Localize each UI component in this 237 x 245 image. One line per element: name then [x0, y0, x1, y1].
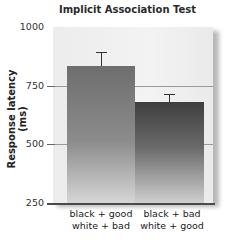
y-tick-label-750: 750 — [10, 80, 44, 91]
bar-black-bad-white-good — [135, 102, 204, 203]
y-tick-750 — [47, 86, 55, 87]
error-bar-1-stem — [101, 52, 102, 66]
error-bar-2-stem — [169, 94, 170, 102]
x-category-1-line-2: white + bad — [65, 220, 137, 232]
y-tick-500 — [47, 144, 55, 145]
error-bar-1-cap — [96, 52, 107, 53]
x-category-1-line-1: black + good — [65, 208, 137, 220]
bar-black-good-white-bad — [67, 66, 135, 203]
x-category-1: black + good white + bad — [65, 208, 137, 232]
x-category-2-line-2: white + good — [136, 220, 208, 232]
y-tick-label-250: 250 — [10, 197, 44, 208]
error-bar-2-cap — [164, 94, 175, 95]
x-axis-baseline — [47, 203, 215, 205]
chart-title: Implicit Association Test — [0, 4, 237, 15]
x-category-2-line-1: black + bad — [136, 208, 208, 220]
y-tick-label-500: 500 — [10, 138, 44, 149]
y-tick-label-1000: 1000 — [10, 21, 44, 32]
x-category-2: black + bad white + good — [136, 208, 208, 232]
